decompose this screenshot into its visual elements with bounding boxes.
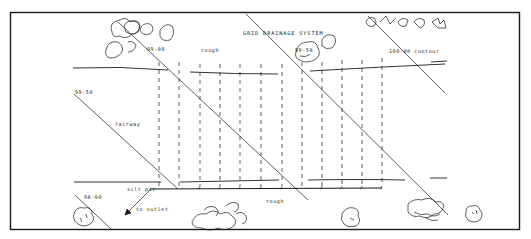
diagram-title: GRID DRAINAGE SYSTEM [243, 30, 323, 36]
silt-pit-label: silt pit [127, 186, 156, 193]
rough-label-top: rough [201, 47, 219, 54]
fairway-label: fairway [115, 121, 140, 128]
contour-label-100-00: 100-00 contour [389, 48, 440, 54]
contour-label-99-50-right: 99-50 [295, 47, 313, 53]
contour-label-98-00: 98-00 [84, 194, 102, 200]
to-outlet-label: to outlet [136, 206, 169, 212]
fairway-edge-bottom-right [308, 180, 405, 181]
contour-label-99-00: 99-00 [147, 46, 165, 52]
grid-drainage-diagram: GRID DRAINAGE SYSTEM 99-00 rough 99-50 1… [0, 0, 531, 239]
contour-label-99-50-left: 99-50 [75, 89, 93, 95]
rough-label-bottom: rough [266, 198, 284, 205]
